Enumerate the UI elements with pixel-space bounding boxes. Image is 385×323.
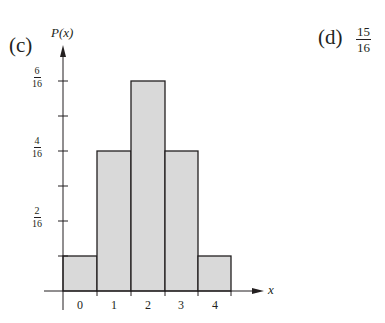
y-tick-numerator: 2 <box>34 206 41 218</box>
bar-x2 <box>131 81 165 291</box>
y-tick-denominator: 16 <box>32 218 42 229</box>
y-tick-label-6-16: 6 16 <box>32 66 42 89</box>
x-tick-label-0: 0 <box>70 299 90 311</box>
y-tick-numerator: 6 <box>34 66 41 78</box>
bars <box>63 81 231 291</box>
y-axis-arrow-icon <box>60 45 66 57</box>
x-axis-arrow-icon <box>252 288 264 294</box>
y-tick-label-2-16: 2 16 <box>32 206 42 229</box>
part-d-label: (d) <box>318 27 343 48</box>
y-tick-denominator: 16 <box>32 148 42 159</box>
y-tick-numerator: 4 <box>34 136 41 148</box>
answer-numerator: 15 <box>356 25 371 40</box>
x-tick-label-3: 3 <box>171 299 191 311</box>
bar-x0 <box>63 256 97 291</box>
y-tick-label-4-16: 4 16 <box>32 136 42 159</box>
bar-x3 <box>165 151 198 291</box>
x-tick-label-2: 2 <box>138 299 158 311</box>
x-tick-label-4: 4 <box>205 299 225 311</box>
bar-x1 <box>97 151 131 291</box>
y-tick-denominator: 16 <box>32 78 42 89</box>
bar-x4 <box>198 256 231 291</box>
part-d-answer: 15 16 <box>356 25 371 54</box>
x-tick-label-1: 1 <box>104 299 124 311</box>
answer-denominator: 16 <box>357 40 370 54</box>
x-axis-title: x <box>268 283 274 296</box>
